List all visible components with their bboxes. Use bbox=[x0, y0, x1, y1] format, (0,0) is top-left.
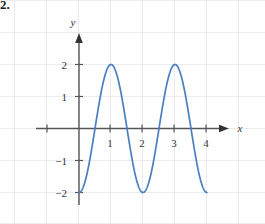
y-axis-label: y bbox=[70, 16, 76, 28]
x-tick-label-4: 4 bbox=[203, 137, 209, 149]
x-axis bbox=[36, 125, 229, 133]
y-tick-label-neg1: −1 bbox=[55, 155, 67, 167]
y-tick-label-1: 1 bbox=[62, 91, 68, 103]
y-tick-label-2: 2 bbox=[62, 59, 68, 71]
coordinate-plane-graph: y x 1 2 3 4 2 1 −1 −2 bbox=[0, 0, 265, 224]
x-axis-label: x bbox=[237, 122, 243, 134]
x-tick-label-1: 1 bbox=[107, 137, 113, 149]
y-axis bbox=[75, 33, 83, 205]
x-tick-label-3: 3 bbox=[171, 137, 177, 149]
x-tick-label-2: 2 bbox=[139, 137, 145, 149]
y-tick-label-neg2: −2 bbox=[55, 187, 67, 199]
worksheet-page: 2. y x bbox=[0, 0, 265, 224]
